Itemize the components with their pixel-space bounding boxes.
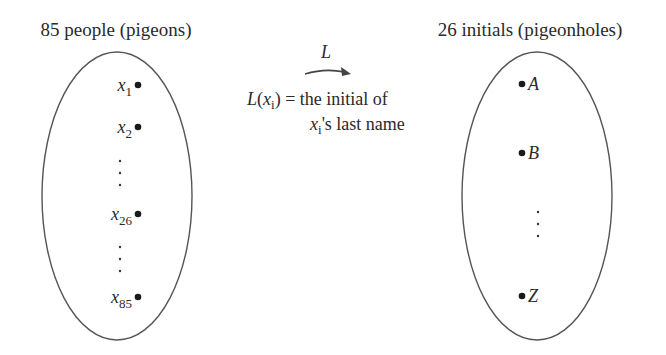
element-label: x1 <box>117 75 133 99</box>
arrow-label: L <box>320 42 331 62</box>
element-A: A <box>519 74 540 94</box>
definition-line-2: xi's last name <box>309 114 405 137</box>
vertical-ellipsis-2 <box>119 246 121 272</box>
left-set: 85 people (pigeons) x1 x2 x26 x85 <box>41 19 192 340</box>
mapping: L L(xi) = the initial of xi's last name <box>246 42 405 137</box>
element-x1: x1 <box>117 75 142 99</box>
right-set-title: 26 initials (pigeonholes) <box>438 19 623 41</box>
right-set: 26 initials (pigeonholes) A B Z <box>438 19 623 340</box>
vertical-ellipsis-3 <box>537 211 539 237</box>
left-set-title: 85 people (pigeons) <box>41 19 192 41</box>
element-label: x85 <box>110 287 132 311</box>
element-dot <box>135 211 142 218</box>
arrowhead-icon <box>341 67 351 76</box>
element-label: x26 <box>110 204 133 228</box>
element-Z: Z <box>519 286 539 306</box>
element-dot <box>135 82 142 89</box>
element-x2: x2 <box>117 117 142 141</box>
element-x26: x26 <box>110 204 141 228</box>
element-label: Z <box>528 286 539 306</box>
pigeonhole-diagram: 85 people (pigeons) x1 x2 x26 x85 <box>0 0 666 355</box>
element-label: B <box>528 143 539 163</box>
element-dot <box>135 294 142 301</box>
vertical-ellipsis-1 <box>119 160 121 186</box>
mapping-arrow-icon <box>305 70 344 74</box>
element-B: B <box>519 143 539 163</box>
element-dot <box>135 124 142 131</box>
definition-line-1: L(xi) = the initial of <box>246 89 388 112</box>
element-dot <box>519 293 526 300</box>
element-dot <box>519 81 526 88</box>
element-label: x2 <box>117 117 133 141</box>
element-x85: x85 <box>110 287 141 311</box>
element-label: A <box>527 74 540 94</box>
element-dot <box>519 150 526 157</box>
